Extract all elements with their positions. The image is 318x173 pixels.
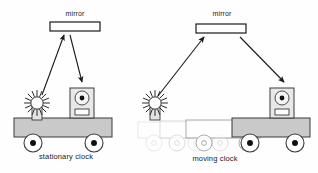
light-source-icon <box>25 91 50 116</box>
detector-readout <box>275 109 289 115</box>
light-beam-upward <box>42 35 64 95</box>
caption-stationary-clock: stationary clock <box>39 152 93 161</box>
caption-moving-clock: moving clock <box>192 154 237 163</box>
wheel-hub <box>247 140 253 146</box>
light-source-icon <box>143 91 168 116</box>
wheel-hub <box>91 140 97 146</box>
diagram-svg <box>0 0 318 173</box>
mirror-label-stationary: mirror <box>66 10 85 17</box>
wheel-hub <box>292 140 298 146</box>
mirror-plate <box>196 24 246 33</box>
detector-dial-center <box>280 96 285 101</box>
light-beam-downward <box>240 37 284 82</box>
mirror-plate <box>50 22 100 31</box>
figure-canvas: mirror mirror stationary clock moving cl… <box>0 0 318 173</box>
wheel-hub <box>30 140 36 146</box>
light-beam-downward <box>70 35 82 82</box>
detector-readout <box>75 109 89 115</box>
detector-dial-center <box>80 96 85 101</box>
mirror-label-moving: mirror <box>213 10 232 17</box>
light-beam-upward <box>158 37 204 96</box>
